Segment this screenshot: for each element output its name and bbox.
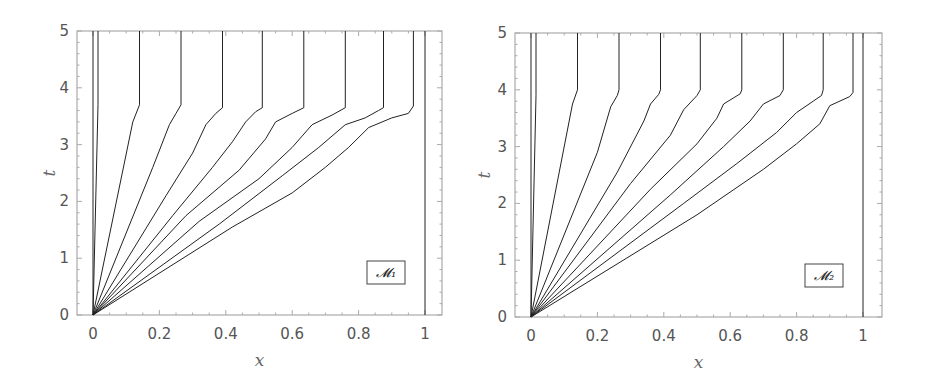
- y-tick-label: 0: [497, 308, 507, 326]
- legend: 𝓜₁: [367, 261, 405, 284]
- x-tick-label: 0.4: [214, 325, 238, 343]
- x-tick-label: 0.8: [347, 325, 371, 343]
- trajectory-line: [93, 31, 345, 315]
- trajectory-line: [93, 31, 98, 315]
- y-tick-label: 2: [59, 192, 69, 210]
- y-axis-label: t: [39, 169, 59, 176]
- y-tick-label: 4: [59, 79, 69, 97]
- y-tick-label: 0: [59, 306, 69, 324]
- x-tick-label: 1: [420, 325, 430, 343]
- chart-panel-m2: 00.20.40.60.81012345xt𝓜₂: [474, 24, 882, 372]
- x-tick-label: 0.2: [585, 327, 609, 345]
- x-tick-label: 0.4: [652, 327, 676, 345]
- trajectory-line: [531, 33, 823, 317]
- x-axis-label: x: [255, 350, 265, 370]
- legend: 𝓜₂: [805, 264, 843, 287]
- trajectory-line: [531, 33, 661, 317]
- trajectory-line: [531, 33, 783, 317]
- y-tick-label: 2: [497, 194, 507, 212]
- y-tick-label: 3: [59, 136, 69, 154]
- trajectory-line: [93, 31, 304, 315]
- figure: 00.20.40.60.81012345xt𝓜₁ 00.20.40.60.810…: [0, 0, 932, 383]
- y-tick-label: 3: [497, 138, 507, 156]
- x-tick-label: 0.6: [280, 325, 304, 343]
- trajectory-line: [93, 31, 181, 315]
- y-tick-label: 5: [497, 24, 507, 42]
- x-tick-label: 1: [858, 327, 868, 345]
- trajectory-line: [531, 33, 619, 317]
- x-axis-label: x: [694, 352, 704, 372]
- x-tick-label: 0.2: [147, 325, 171, 343]
- x-tick-label: 0: [526, 327, 536, 345]
- x-tick-label: 0.6: [718, 327, 742, 345]
- chart-panel-m1: 00.20.40.60.81012345xt𝓜₁: [39, 22, 442, 370]
- x-tick-label: 0: [88, 325, 98, 343]
- y-tick-label: 1: [59, 249, 69, 267]
- trajectory-line: [93, 31, 223, 315]
- legend-label: 𝓜₁: [376, 265, 396, 280]
- trajectory-line: [93, 31, 262, 315]
- y-axis-label: t: [474, 171, 494, 178]
- y-tick-label: 5: [59, 22, 69, 40]
- trajectory-line: [531, 33, 536, 317]
- y-tick-label: 1: [497, 251, 507, 269]
- trajectory-line: [93, 31, 384, 315]
- legend-label: 𝓜₂: [814, 268, 834, 283]
- y-tick-label: 4: [497, 81, 507, 99]
- x-tick-label: 0.8: [785, 327, 809, 345]
